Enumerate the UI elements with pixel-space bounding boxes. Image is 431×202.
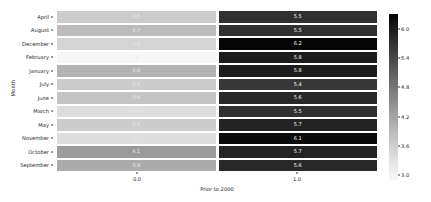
heatmap-cell-value: 5.8 xyxy=(294,55,302,60)
heatmap-cell: 5.8 xyxy=(219,65,378,77)
y-tick-label: February xyxy=(26,54,49,60)
y-tick-label: December xyxy=(22,41,49,47)
heatmap-cell-value: 3.7 xyxy=(132,28,140,33)
heatmap-row: 3.35.5 xyxy=(57,106,377,118)
y-tick-label: May xyxy=(38,122,49,128)
x-tick-mark xyxy=(137,172,138,174)
y-tick-mark xyxy=(51,70,53,71)
heatmap-row: 3.55.7 xyxy=(57,119,377,131)
heatmap-cell-value: 5.5 xyxy=(294,14,302,19)
y-tick-label: August xyxy=(31,27,49,33)
heatmap-cell-value: 3.4 xyxy=(132,41,140,46)
heatmap-cell-value: 3.6 xyxy=(132,95,140,100)
heatmap-cell: 5.8 xyxy=(219,52,378,64)
heatmap-cell: 3.6 xyxy=(57,92,216,104)
y-tick-label: November xyxy=(22,135,49,141)
y-tick-mark xyxy=(51,138,53,139)
colorbar-tick-label: 3.0 xyxy=(401,172,409,178)
y-tick-label: March xyxy=(33,108,49,114)
colorbar-tick-mark xyxy=(398,175,400,176)
heatmap-cell: 6.2 xyxy=(219,38,378,50)
heatmap-cell: 5.5 xyxy=(219,106,378,118)
heatmap-cell-value: 3.9 xyxy=(132,163,140,168)
y-tick-mark xyxy=(51,151,53,152)
x-tick-mark xyxy=(297,172,298,174)
heatmap-row: 3.75.5 xyxy=(57,25,377,37)
heatmap-cell-value: 3.3 xyxy=(132,136,140,141)
y-tick-label: September xyxy=(20,162,49,168)
heatmap-row: 3.55.4 xyxy=(57,79,377,91)
heatmap-cell: 5.7 xyxy=(219,146,378,158)
heatmap-row: 3.85.8 xyxy=(57,65,377,77)
colorbar-tick-label: 3.6 xyxy=(401,143,409,149)
heatmap-cell: 3.3 xyxy=(57,133,216,145)
colorbar-tick-label: 5.4 xyxy=(401,55,409,61)
colorbar-tick-mark xyxy=(398,145,400,146)
y-tick-mark xyxy=(51,124,53,125)
heatmap-cell: 3.3 xyxy=(57,106,216,118)
heatmap-cell-value: 3.8 xyxy=(132,68,140,73)
heatmap-cell: 3.5 xyxy=(57,79,216,91)
heatmap-cell: 4.1 xyxy=(57,146,216,158)
colorbar-tick-mark xyxy=(398,57,400,58)
heatmap-cell: 5.5 xyxy=(219,25,378,37)
heatmap-cell: 5.6 xyxy=(219,160,378,172)
y-tick-label: July xyxy=(40,81,49,87)
heatmap-cell: 3.9 xyxy=(57,160,216,172)
heatmap-cell-value: 6.2 xyxy=(294,41,302,46)
y-tick-mark xyxy=(51,84,53,85)
colorbar-tick-label: 4.2 xyxy=(401,114,409,120)
heatmap-row: 35.8 xyxy=(57,52,377,64)
y-tick-mark xyxy=(51,165,53,166)
heatmap-cell-value: 3.5 xyxy=(132,14,140,19)
y-tick-mark xyxy=(51,43,53,44)
x-tick-label: 0.0 xyxy=(133,176,141,182)
heatmap-cell-value: 3.5 xyxy=(132,122,140,127)
heatmap-cell: 3.5 xyxy=(57,119,216,131)
y-tick-label: April xyxy=(37,14,49,20)
heatmap-cell-value: 5.5 xyxy=(294,109,302,114)
heatmap-cell: 3.4 xyxy=(57,38,216,50)
heatmap-cell: 5.7 xyxy=(219,119,378,131)
y-tick-mark xyxy=(51,30,53,31)
colorbar-tick-label: 4.8 xyxy=(401,84,409,90)
heatmap-cell: 3 xyxy=(57,52,216,64)
y-tick-mark xyxy=(51,16,53,17)
heatmap-cell-value: 5.8 xyxy=(294,68,302,73)
heatmap-cell-value: 5.6 xyxy=(294,163,302,168)
x-axis-label: Prior to 2000 xyxy=(57,186,377,192)
y-tick-mark xyxy=(51,111,53,112)
heatmap-cell-value: 4.1 xyxy=(132,149,140,154)
heatmap-cell: 5.5 xyxy=(219,11,378,23)
y-tick-label: October xyxy=(28,149,49,155)
y-tick-mark xyxy=(51,97,53,98)
heatmap-cell: 3.5 xyxy=(57,11,216,23)
heatmap-cell-value: 5.4 xyxy=(294,82,302,87)
x-tick-label: 1.0 xyxy=(293,176,301,182)
heatmap-plot-area: 3.55.53.75.53.46.235.83.85.83.55.43.65.6… xyxy=(57,10,377,172)
heatmap-figure: Month AprilAugustDecemberFebruaryJanuary… xyxy=(0,0,431,202)
heatmap-cell-value: 5.5 xyxy=(294,28,302,33)
heatmap-cell-value: 3.5 xyxy=(132,82,140,87)
heatmap-cell-value: 5.6 xyxy=(294,95,302,100)
y-tick-label-group: AprilAugustDecemberFebruaryJanuaryJulyJu… xyxy=(0,0,53,202)
heatmap-cell: 5.6 xyxy=(219,92,378,104)
heatmap-cell-value: 5.7 xyxy=(294,122,302,127)
heatmap-cell-value: 3.3 xyxy=(132,109,140,114)
heatmap-cell: 3.8 xyxy=(57,65,216,77)
heatmap-row: 3.36.1 xyxy=(57,133,377,145)
y-tick-label: January xyxy=(29,68,49,74)
heatmap-cell: 6.1 xyxy=(219,133,378,145)
colorbar-tick-label: 6.0 xyxy=(401,26,409,32)
heatmap-row: 3.95.6 xyxy=(57,160,377,172)
heatmap-row: 4.15.7 xyxy=(57,146,377,158)
heatmap-cell-value: 5.7 xyxy=(294,149,302,154)
y-tick-label: June xyxy=(38,95,49,101)
y-tick-mark xyxy=(51,57,53,58)
heatmap-cell-value: 3 xyxy=(135,55,138,60)
heatmap-cell: 5.4 xyxy=(219,79,378,91)
colorbar-gradient xyxy=(389,14,398,180)
colorbar-tick-mark xyxy=(398,28,400,29)
heatmap-row: 3.46.2 xyxy=(57,38,377,50)
heatmap-row: 3.55.5 xyxy=(57,11,377,23)
